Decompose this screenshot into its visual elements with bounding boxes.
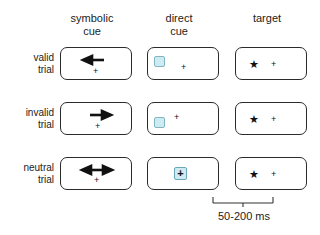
fixation-cross: +: [93, 67, 98, 76]
stimulus-box-neutral-direct-cue: +: [147, 157, 219, 190]
fixation-cross: +: [174, 113, 179, 122]
cue-square-left-icon: [154, 56, 165, 67]
stimulus-box-valid-symbolic-cue: +: [60, 47, 132, 80]
fixation-cross: +: [181, 63, 186, 72]
cue-square-left-icon: [154, 117, 165, 128]
cueing-paradigm-diagram: symbolic cue direct cue target valid tri…: [0, 0, 320, 235]
fixation-cross: +: [271, 115, 276, 124]
row-label-neutral-trial: neutral trial: [4, 162, 54, 185]
column-header-target: target: [233, 12, 301, 25]
fixation-cross: +: [175, 167, 186, 179]
stimulus-box-invalid-target: ★ +: [235, 102, 307, 135]
row-label-invalid-trial: invalid trial: [4, 107, 54, 130]
row-label-valid-trial: valid trial: [4, 52, 54, 75]
stimulus-box-neutral-target: ★ +: [235, 157, 307, 190]
star-left-icon: ★: [249, 59, 259, 70]
fixation-cross: +: [95, 122, 100, 131]
star-left-icon: ★: [249, 114, 259, 125]
stimulus-box-invalid-direct-cue: +: [147, 102, 219, 135]
arrow-right-icon: [61, 103, 133, 136]
stimulus-box-invalid-symbolic-cue: +: [60, 102, 132, 135]
stimulus-box-valid-target: ★ +: [235, 47, 307, 80]
cue-square-center-icon: +: [174, 167, 187, 180]
star-left-icon: ★: [249, 169, 259, 180]
fixation-cross: +: [271, 170, 276, 179]
stimulus-box-neutral-symbolic-cue: +: [60, 157, 132, 190]
column-header-direct-cue: direct cue: [145, 12, 213, 37]
stimulus-box-valid-direct-cue: +: [147, 47, 219, 80]
arrow-left-icon: [61, 48, 133, 81]
fixation-cross: +: [271, 60, 276, 69]
fixation-cross: +: [94, 176, 99, 185]
soa-duration-label: 50-200 ms: [192, 210, 296, 222]
column-header-symbolic-cue: symbolic cue: [58, 12, 126, 37]
soa-bracket: [212, 196, 274, 208]
